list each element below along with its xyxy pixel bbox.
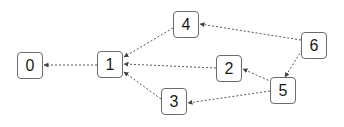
edge-2-to-1: [124, 64, 216, 68]
node-label: 3: [170, 93, 179, 111]
edge-6-to-4: [200, 24, 301, 40]
node-1: 1: [97, 51, 123, 78]
node-5: 5: [270, 77, 296, 104]
node-label: 4: [182, 16, 191, 34]
node-4: 4: [173, 11, 199, 38]
node-0: 0: [17, 52, 43, 79]
node-label: 1: [106, 56, 115, 74]
edge-5-to-3: [188, 91, 270, 103]
node-label: 2: [225, 60, 234, 78]
node-3: 3: [161, 88, 187, 115]
edge-5-to-2: [243, 69, 272, 82]
node-label: 5: [279, 82, 288, 100]
node-label: 0: [26, 57, 35, 75]
directed-graph-diagram: 0123456: [0, 0, 344, 127]
edge-4-to-1: [124, 28, 173, 57]
node-2: 2: [216, 55, 242, 82]
edge-3-to-1: [124, 72, 161, 99]
node-6: 6: [301, 32, 327, 59]
node-label: 6: [310, 37, 319, 55]
edge-6-to-5: [285, 50, 302, 77]
